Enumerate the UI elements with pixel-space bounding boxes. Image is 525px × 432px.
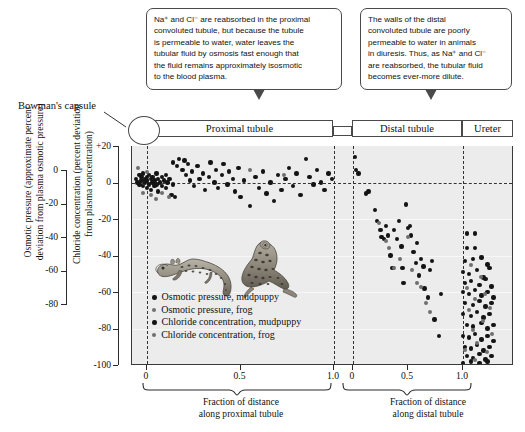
data-point xyxy=(473,332,477,336)
segment-bar-ureter: Ureter xyxy=(462,120,513,137)
data-point xyxy=(487,266,491,270)
data-point xyxy=(477,299,481,303)
data-point xyxy=(475,268,479,272)
panel-divider-3 xyxy=(463,146,464,364)
y-tick-label-chloride: -60 xyxy=(71,286,111,297)
data-point xyxy=(192,184,196,188)
segment-bar-loop-of-henle xyxy=(333,126,352,136)
x-axis-brace-proximal xyxy=(141,382,333,396)
legend-label: Osmotic pressure, frog xyxy=(161,304,252,317)
data-point xyxy=(475,310,479,314)
data-point xyxy=(304,157,308,161)
data-point xyxy=(426,295,430,299)
data-point xyxy=(167,177,171,181)
data-point xyxy=(177,157,181,161)
y-tick-label-chloride: -40 xyxy=(71,249,111,260)
legend-label: Chloride concentration, mudpuppy xyxy=(162,316,302,329)
distal-tubule-callout: The walls of the distal convoluted tubul… xyxy=(360,8,512,90)
callout-line: convoluted tubule are poorly xyxy=(368,25,504,36)
data-point xyxy=(248,204,252,208)
data-point xyxy=(467,308,471,312)
segment-bar-proximal-tubule: Proximal tubule xyxy=(146,120,333,137)
data-point xyxy=(479,337,483,341)
data-point xyxy=(261,169,265,173)
data-point xyxy=(298,193,302,197)
data-point xyxy=(461,290,465,294)
data-point xyxy=(465,231,469,235)
data-point xyxy=(421,264,425,268)
y-tick-chloride xyxy=(113,256,118,257)
panel-divider-2 xyxy=(353,146,354,364)
y-tick-chloride xyxy=(113,292,118,293)
data-point xyxy=(384,239,388,243)
data-point xyxy=(473,246,477,250)
y-tick-chloride xyxy=(113,219,118,220)
x-axis-label-distal: Fraction of distancealong distal tubule xyxy=(355,396,501,420)
data-point xyxy=(136,166,140,170)
callout-line: are reabsorbed, the tubular fluid xyxy=(368,60,504,71)
legend-label: Chloride concentration, frog xyxy=(161,329,275,342)
data-point xyxy=(490,332,494,336)
data-point xyxy=(483,277,487,281)
data-point xyxy=(307,175,311,179)
callout-line: convoluted tubule, but because the tubul… xyxy=(154,25,334,36)
y-tick-label-chloride: 0 xyxy=(71,176,111,187)
data-point xyxy=(212,180,216,184)
data-point xyxy=(485,359,489,363)
data-point xyxy=(353,155,357,159)
y-tick-label-osmotic: 0 xyxy=(24,164,58,175)
y-tick-label-osmotic: -40 xyxy=(24,231,58,242)
x-tick-label-distal: 1.0 xyxy=(450,370,474,381)
x-axis-brace-distal xyxy=(341,382,473,396)
data-point xyxy=(399,244,403,248)
data-point xyxy=(477,352,481,356)
data-point xyxy=(207,175,211,179)
data-point xyxy=(195,164,199,168)
data-point xyxy=(430,259,434,263)
y-tick-chloride xyxy=(113,183,118,184)
data-point xyxy=(473,358,477,362)
y-tick-label-chloride: -20 xyxy=(71,213,111,224)
callout-line: Na⁺ and Cl⁻ are reabsorbed in the proxim… xyxy=(154,14,334,25)
data-point xyxy=(465,286,469,290)
callout-line: the fluid remains approximately isosmoti… xyxy=(154,60,334,71)
data-point xyxy=(387,246,391,250)
data-point xyxy=(236,166,240,170)
data-point xyxy=(406,235,410,239)
data-point xyxy=(378,228,382,232)
data-point xyxy=(392,266,396,270)
data-point xyxy=(485,334,489,338)
legend-item: Chloride concentration, mudpuppy xyxy=(152,316,301,329)
data-point xyxy=(481,319,485,323)
data-point xyxy=(467,335,471,339)
y-tick-label-chloride: -80 xyxy=(71,322,111,333)
legend-item: Osmotic pressure, mudpuppy xyxy=(152,291,301,304)
data-point xyxy=(471,303,475,307)
legend-marker-dark xyxy=(152,320,157,325)
data-point xyxy=(227,169,231,173)
data-point xyxy=(469,263,473,267)
data-point xyxy=(428,310,432,314)
x-tick-label-proximal: 0 xyxy=(134,370,158,381)
data-point xyxy=(463,301,467,305)
data-point xyxy=(479,255,483,259)
data-point xyxy=(186,162,190,166)
data-point xyxy=(487,345,491,349)
legend-item: Osmotic pressure, frog xyxy=(152,304,301,317)
data-point xyxy=(401,281,405,285)
data-point xyxy=(469,279,473,283)
x-tick-label-proximal: 0.5 xyxy=(228,370,252,381)
data-point xyxy=(467,292,471,296)
segment-label-proximal: Proximal tubule xyxy=(206,123,273,134)
data-point xyxy=(279,188,283,192)
data-point xyxy=(311,182,315,186)
y-tick-label-osmotic: -80 xyxy=(24,298,58,309)
data-point xyxy=(491,295,495,299)
callout-line: permeable to water in animals xyxy=(368,37,504,48)
y-tick-label-chloride: -100 xyxy=(71,359,111,370)
data-point xyxy=(319,180,323,184)
grid-line xyxy=(132,219,512,220)
data-point xyxy=(268,180,272,184)
data-point xyxy=(485,326,489,330)
data-point xyxy=(465,323,469,327)
